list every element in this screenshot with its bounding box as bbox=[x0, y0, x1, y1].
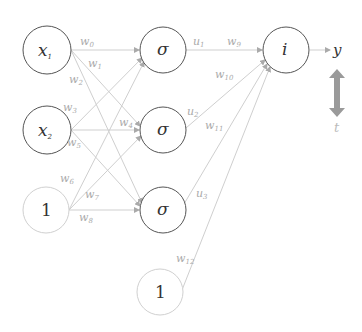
node-bias-hidden: 1 bbox=[137, 269, 183, 315]
hidden-output-labels: u1 u2 u3 bbox=[187, 35, 208, 201]
svg-text:w12: w12 bbox=[176, 252, 195, 266]
svg-text:w11: w11 bbox=[205, 119, 223, 133]
hidden-output-edges bbox=[182, 50, 330, 290]
svg-text:1: 1 bbox=[41, 200, 52, 220]
svg-text:w9: w9 bbox=[227, 35, 241, 49]
svg-text:w1: w1 bbox=[88, 57, 102, 71]
svg-text:u2: u2 bbox=[187, 105, 199, 119]
svg-text:w2: w2 bbox=[69, 73, 83, 87]
svg-text:w7: w7 bbox=[85, 188, 99, 202]
output-y-label: y bbox=[332, 41, 342, 59]
svg-text:1: 1 bbox=[155, 282, 166, 302]
input-hidden-edges bbox=[69, 50, 144, 210]
svg-text:σ: σ bbox=[157, 39, 169, 59]
target-t-label: t bbox=[334, 120, 340, 135]
node-bias-input: 1 bbox=[23, 187, 69, 233]
svg-text:w6: w6 bbox=[60, 172, 74, 186]
svg-text:σ: σ bbox=[157, 199, 169, 219]
svg-text:w5: w5 bbox=[67, 136, 81, 150]
node-x1: x1 bbox=[23, 26, 71, 74]
node-hidden-2: σ bbox=[140, 107, 186, 153]
svg-text:w3: w3 bbox=[63, 101, 77, 115]
node-output: i bbox=[263, 27, 309, 73]
svg-text:u3: u3 bbox=[196, 187, 208, 201]
svg-text:u1: u1 bbox=[193, 35, 205, 49]
svg-text:w0: w0 bbox=[80, 35, 94, 49]
svg-text:w10: w10 bbox=[215, 68, 234, 82]
svg-text:i: i bbox=[282, 39, 287, 59]
node-hidden-3: σ bbox=[140, 187, 186, 233]
svg-text:w4: w4 bbox=[119, 116, 133, 130]
neural-network-diagram: x1 x2 1 σ σ σ 1 i w0 w1 w2 w3 w4 w5 w6 w… bbox=[0, 0, 362, 332]
svg-text:σ: σ bbox=[157, 119, 169, 139]
node-hidden-1: σ bbox=[140, 27, 186, 73]
compare-arrow-icon bbox=[329, 69, 345, 117]
svg-text:w8: w8 bbox=[79, 211, 93, 225]
